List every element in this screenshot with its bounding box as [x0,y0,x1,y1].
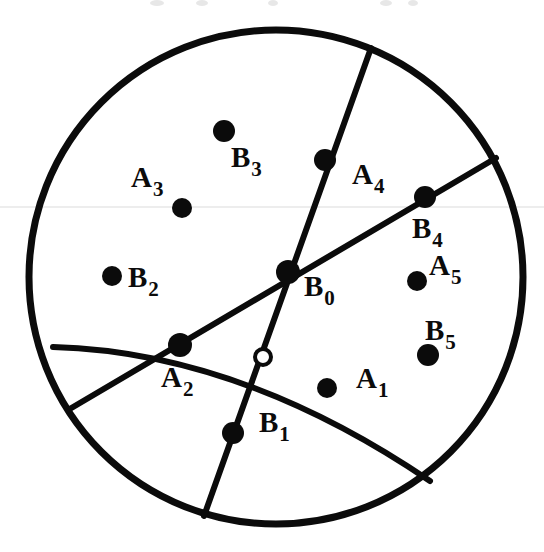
point-a2-label-letter: A [161,361,182,393]
point-b0-label: B0 [304,272,334,301]
point-b2-marker [102,266,122,286]
scan-smudge [408,0,418,6]
point-a4-marker [314,149,336,171]
point-a4-label-subscript: 4 [374,174,385,198]
point-a1-label-subscript: 1 [378,378,389,402]
point-b0-label-letter: B [304,270,323,302]
point-a3-label-subscript: 3 [153,177,164,201]
point-b5-label-letter: B [425,314,444,346]
scan-smudge [196,0,208,6]
point-a5-marker [407,271,427,291]
point-a3-label-letter: A [131,161,152,193]
point-b3-label-subscript: 3 [251,157,262,181]
point-b4-label-subscript: 4 [432,228,443,252]
point-b3-label: B3 [231,143,261,172]
scan-smudge [150,0,164,6]
point-a4-label-letter: A [352,158,373,190]
point-a1-label: A1 [356,364,387,393]
point-b2-label-subscript: 2 [148,277,159,301]
point-a4-label: A4 [352,160,383,189]
point-a5-label-subscript: 5 [451,265,462,289]
point-b0-marker [276,260,300,284]
point-b5-marker [417,344,439,366]
point-b0-label-subscript: 0 [324,286,335,310]
point-b5-label: B5 [425,316,455,345]
point-b1-label: B1 [259,408,289,437]
scan-smudge [380,0,392,6]
point-a5-label: A5 [429,251,460,280]
point-b3-label-letter: B [231,141,250,173]
point-b3-marker [213,120,235,142]
point-a1-label-letter: A [356,362,377,394]
point-a1-marker [317,378,337,398]
point-a2-marker [168,333,192,357]
point-hollow-intersection-marker [255,349,271,365]
geometric-figure: A1A2A3A4A5B0B1B2B3B4B5 [0,0,544,552]
point-a5-label-letter: A [429,249,450,281]
point-b1-label-letter: B [259,406,278,438]
scan-smudge [268,0,278,6]
point-b2-label-letter: B [128,261,147,293]
point-a3-label: A3 [131,163,162,192]
point-a3-marker [172,198,192,218]
point-b2-label: B2 [128,263,158,292]
point-b4-marker [414,186,436,208]
point-a2-label-subscript: 2 [183,377,194,401]
point-b1-label-subscript: 1 [279,422,290,446]
point-b1-marker [222,422,244,444]
figure-canvas [0,0,544,552]
point-b5-label-subscript: 5 [445,330,456,354]
point-b4-label: B4 [412,214,442,243]
point-b4-label-letter: B [412,212,431,244]
point-a2-label: A2 [161,363,192,392]
